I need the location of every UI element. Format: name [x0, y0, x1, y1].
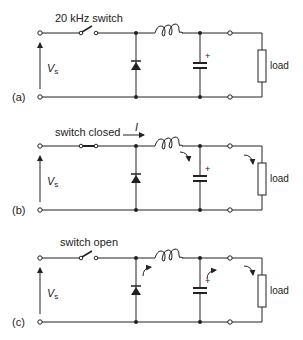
panel-label: (c): [12, 316, 25, 328]
freewheel-current-arrow-icon: [143, 267, 151, 276]
source-voltage-label: Vs: [47, 175, 58, 189]
closed-switch-icon: [79, 144, 98, 148]
panel-label: (b): [12, 204, 25, 216]
open-switch-icon: [79, 251, 98, 260]
current-flow-arrow-icon: [180, 152, 189, 161]
switch-label: switch open: [60, 236, 118, 248]
source-voltage-label: Vs: [47, 287, 58, 301]
current-flow-arrow-icon: [244, 155, 253, 164]
panel-a: 20 kHz switch Vs (a) + load: [12, 12, 289, 103]
load-label: load: [270, 173, 289, 184]
capacitor-polarity: +: [205, 51, 210, 61]
panel-label: (a): [12, 91, 25, 103]
panel-b: switch closed I Vs (b) + load: [12, 121, 289, 216]
load-label: load: [270, 60, 289, 71]
source-voltage-label: Vs: [47, 62, 58, 76]
current-label: I: [135, 121, 138, 133]
load-current-arrow-icon: [244, 266, 253, 275]
panel-c: switch open Vs (c) + load: [12, 236, 289, 328]
capacitor-polarity: +: [205, 276, 210, 286]
open-switch-icon: [79, 26, 98, 35]
switch-label: switch closed: [55, 126, 120, 138]
buck-converter-figure: 20 kHz switch Vs (a) + load switch close…: [0, 0, 303, 340]
capacitor-polarity: +: [205, 164, 210, 174]
load-label: load: [270, 285, 289, 296]
switch-label: 20 kHz switch: [55, 12, 123, 24]
